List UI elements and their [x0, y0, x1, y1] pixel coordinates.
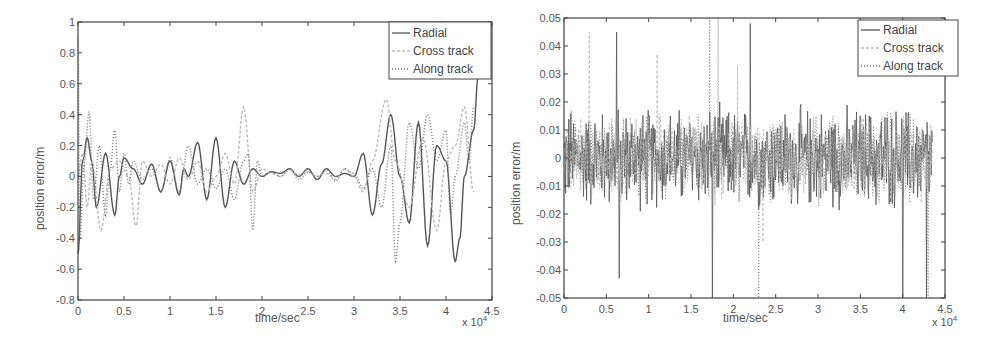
left-chart-x-multiplier: x 104 [462, 314, 488, 328]
y-tick-label: -0.4 [56, 232, 75, 244]
right-chart-x-multiplier-base: x 10 [932, 316, 953, 328]
x-tick-label: 4.5 [937, 303, 952, 315]
right-chart-x-multiplier: x 104 [932, 314, 958, 328]
x-tick-label: 1.5 [208, 305, 223, 317]
legend-label-radial: Radial [883, 23, 917, 37]
y-tick-label: 0.05 [540, 12, 561, 24]
y-tick-label: -0.01 [536, 180, 561, 192]
x-tick-label: 1.5 [683, 303, 698, 315]
x-tick-label: 0 [75, 305, 81, 317]
x-tick-label: 1 [646, 303, 652, 315]
x-tick-label: 3 [351, 305, 357, 317]
y-tick-label: 0.6 [60, 78, 75, 90]
x-tick-label: 0 [561, 303, 567, 315]
left-chart: 00.511.522.533.544.5-0.8-0.6-0.4-0.200.2… [33, 16, 500, 328]
y-tick-label: 1 [69, 16, 75, 28]
y-tick-label: -0.8 [56, 294, 75, 306]
y-tick-label: -0.02 [536, 208, 561, 220]
figure-canvas: 00.511.522.533.544.5-0.8-0.6-0.4-0.200.2… [0, 0, 994, 345]
x-tick-label: 2.5 [768, 303, 783, 315]
legend-label-cross-track: Cross track [883, 41, 945, 55]
y-tick-label: 0.8 [60, 47, 75, 59]
legend-label-cross-track: Cross track [413, 44, 475, 58]
y-tick-label: 0.4 [60, 109, 75, 121]
y-tick-label: -0.05 [536, 292, 561, 304]
x-tick-label: 4 [900, 303, 906, 315]
right-chart-legend: Radial Cross track Along track [858, 20, 958, 76]
x-tick-label: 1 [167, 305, 173, 317]
right-chart-xlabel: time/sec [723, 311, 768, 325]
right-chart: 00.511.522.533.544.5-0.05-0.04-0.03-0.02… [509, 12, 958, 328]
x-tick-label: 4 [443, 305, 449, 317]
y-tick-label: 0.2 [60, 140, 75, 152]
right-chart-x-multiplier-exp: 4 [953, 314, 958, 323]
y-tick-label: 0 [69, 170, 75, 182]
right-chart-ylabel: position error/m [509, 142, 523, 225]
left-chart-x-multiplier-exp: 4 [483, 314, 488, 323]
y-tick-label: 0.03 [540, 68, 561, 80]
legend-label-along-track: Along track [413, 62, 474, 76]
left-chart-x-multiplier-base: x 10 [462, 316, 483, 328]
y-tick-label: 0 [555, 152, 561, 164]
left-chart-ylabel: position error/m [33, 147, 47, 230]
y-tick-label: -0.04 [536, 264, 561, 276]
y-tick-label: -0.2 [56, 201, 75, 213]
y-tick-label: 0.02 [540, 96, 561, 108]
x-tick-label: 3 [815, 303, 821, 315]
legend-label-radial: Radial [413, 26, 447, 40]
x-tick-label: 3.5 [392, 305, 407, 317]
y-tick-label: 0.04 [540, 40, 561, 52]
x-tick-label: 2.5 [300, 305, 315, 317]
legend-label-along-track: Along track [883, 59, 944, 73]
x-tick-label: 0.5 [599, 303, 614, 315]
series-radial [78, 76, 478, 261]
x-tick-label: 0.5 [116, 305, 131, 317]
left-chart-xlabel: time/sec [255, 311, 300, 325]
y-tick-label: 0.01 [540, 124, 561, 136]
y-tick-label: -0.6 [56, 263, 75, 275]
x-tick-label: 3.5 [853, 303, 868, 315]
left-chart-legend: Radial Cross track Along track [389, 22, 491, 79]
y-tick-label: -0.03 [536, 236, 561, 248]
